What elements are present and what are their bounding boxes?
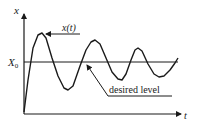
curve-label: x(t) bbox=[61, 22, 77, 34]
desired-level-label: desired level bbox=[109, 84, 160, 95]
x-t-curve bbox=[24, 33, 178, 112]
diagram-svg: x t X0 x(t) desired level bbox=[0, 0, 197, 127]
damped-oscillation-diagram: x t X0 x(t) desired level bbox=[0, 0, 197, 127]
y-axis-label: x bbox=[13, 4, 19, 16]
level-label-leader-arrow bbox=[87, 65, 108, 96]
level-label-subscript: 0 bbox=[15, 62, 19, 70]
level-label-x0: X0 bbox=[7, 56, 19, 70]
x-axis-label: t bbox=[184, 110, 187, 121]
